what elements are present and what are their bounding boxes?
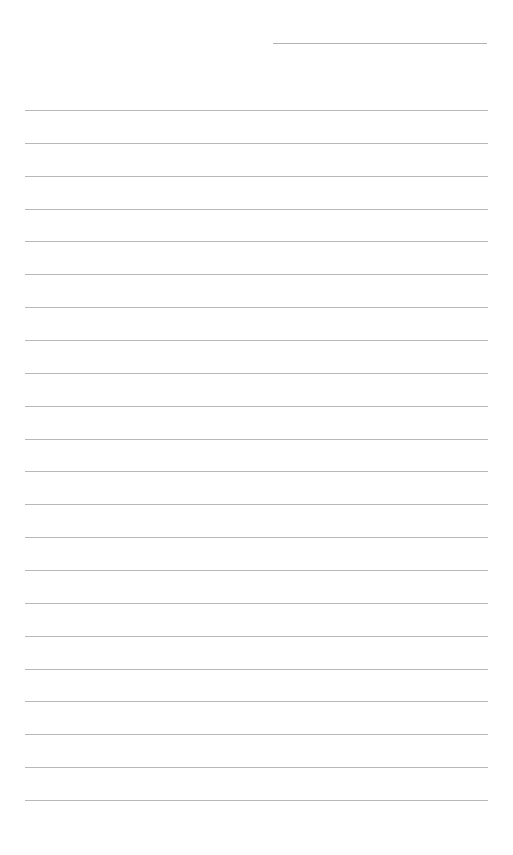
ruled-line bbox=[25, 800, 488, 801]
ruled-line bbox=[25, 209, 488, 210]
ruled-line bbox=[25, 439, 488, 440]
ruled-line bbox=[25, 504, 488, 505]
ruled-line bbox=[25, 570, 488, 571]
ruled-line bbox=[25, 340, 488, 341]
ruled-line bbox=[25, 603, 488, 604]
header-date-line bbox=[273, 43, 487, 44]
ruled-line bbox=[25, 241, 488, 242]
lined-paper-page bbox=[0, 0, 513, 855]
ruled-line bbox=[25, 143, 488, 144]
ruled-line bbox=[25, 176, 488, 177]
ruled-line bbox=[25, 471, 488, 472]
ruled-line bbox=[25, 734, 488, 735]
ruled-line bbox=[25, 537, 488, 538]
ruled-line bbox=[25, 307, 488, 308]
ruled-line bbox=[25, 767, 488, 768]
ruled-line bbox=[25, 701, 488, 702]
ruled-line bbox=[25, 373, 488, 374]
ruled-line bbox=[25, 636, 488, 637]
ruled-line bbox=[25, 669, 488, 670]
ruled-line bbox=[25, 110, 488, 111]
ruled-line bbox=[25, 274, 488, 275]
ruled-line bbox=[25, 406, 488, 407]
